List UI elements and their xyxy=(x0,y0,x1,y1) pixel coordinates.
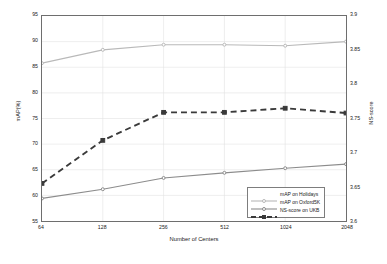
x-axis-tick-label: 1024 xyxy=(280,225,292,230)
y-axis-left-tick-label: 60 xyxy=(32,194,38,199)
legend-swatch xyxy=(251,207,277,215)
series-line xyxy=(42,108,346,183)
series-line xyxy=(42,42,346,64)
data-point xyxy=(223,43,226,46)
y-axis-right-tick-label: 3.85 xyxy=(350,47,360,52)
legend: mAP on HolidaysmAP on Oxford5KNS-score o… xyxy=(247,187,325,218)
legend-item[interactable]: mAP on Oxford5K xyxy=(251,199,320,207)
x-axis-tick-label: 128 xyxy=(98,225,107,230)
y-axis-right-tick-label: 3.8 xyxy=(350,81,357,86)
legend-item[interactable]: mAP on Holidays xyxy=(251,191,320,199)
chart-figure: 556065707580859095 3.63.653.73.753.83.85… xyxy=(0,0,387,264)
x-axis-tick-label: 512 xyxy=(220,225,229,230)
y-axis-left-tick-label: 65 xyxy=(32,168,38,173)
x-axis-title: Number of Centers xyxy=(41,236,347,242)
legend-swatch xyxy=(251,199,277,207)
y-axis-left-tick-label: 80 xyxy=(32,90,38,95)
data-point xyxy=(284,44,287,47)
legend-swatch xyxy=(251,191,277,199)
legend-label: mAP on Oxford5K xyxy=(280,200,320,205)
data-point xyxy=(101,48,104,51)
y-axis-left-title: mAP(%) xyxy=(15,81,21,141)
y-axis-left-tick-label: 95 xyxy=(32,12,38,17)
data-point xyxy=(345,40,346,43)
y-axis-right-tick-label: 3.75 xyxy=(350,116,360,121)
y-axis-left-tick-label: 85 xyxy=(32,64,38,69)
y-axis-right-tick-label: 3.9 xyxy=(350,12,357,17)
data-point xyxy=(223,171,226,174)
y-axis-left-tick-label: 70 xyxy=(32,142,38,147)
data-point xyxy=(162,43,165,46)
x-axis-tick-label: 2048 xyxy=(341,225,353,230)
data-point xyxy=(283,106,287,110)
legend-item[interactable]: NS-score on UKB xyxy=(251,207,320,215)
data-point xyxy=(162,176,165,179)
data-point xyxy=(344,111,346,115)
x-axis-ticks: 6412825651210242048 xyxy=(41,225,347,235)
y-axis-right-tick-label: 3.7 xyxy=(350,150,357,155)
data-point xyxy=(42,182,44,186)
y-axis-right-tick-label: 3.65 xyxy=(350,185,360,190)
y-axis-left-ticks: 556065707580859095 xyxy=(18,15,38,222)
data-point xyxy=(42,197,43,200)
y-axis-left-tick-label: 90 xyxy=(32,38,38,43)
data-point xyxy=(101,188,104,191)
data-point xyxy=(162,110,166,114)
data-point xyxy=(42,62,43,65)
y-axis-right-title: NS-score xyxy=(368,83,374,143)
data-point xyxy=(223,110,227,114)
x-axis-tick-label: 256 xyxy=(159,225,168,230)
y-axis-left-tick-label: 75 xyxy=(32,116,38,121)
legend-label: mAP on Holidays xyxy=(280,192,318,197)
legend-label: NS-score on UKB xyxy=(280,208,319,213)
data-point xyxy=(284,167,287,170)
x-axis-tick-label: 64 xyxy=(38,225,44,230)
data-point xyxy=(345,163,346,166)
data-point xyxy=(101,138,105,142)
